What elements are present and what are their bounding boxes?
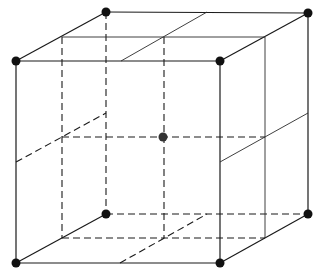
corner-atom-back-top-right xyxy=(304,9,313,18)
top-left-depth-edge xyxy=(16,12,106,61)
corner-atom-front-bottom-right xyxy=(216,259,225,268)
corner-atom-front-top-right xyxy=(216,57,225,66)
bcc-unit-cell-diagram xyxy=(0,0,317,272)
corner-atom-back-bottom-right xyxy=(304,210,313,219)
corner-atom-front-bottom-left xyxy=(12,259,21,268)
corner-atom-back-top-left xyxy=(102,8,111,17)
corner-atom-front-top-left xyxy=(12,57,21,66)
corner-atom-back-bottom-left xyxy=(102,210,111,219)
bottom-left-depth-edge xyxy=(16,214,106,263)
atoms xyxy=(12,8,313,268)
body-center-atom xyxy=(159,133,168,142)
left-face-mid-line xyxy=(16,113,106,162)
